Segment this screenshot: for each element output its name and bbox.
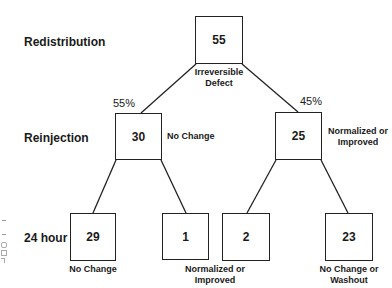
node-value: 2: [243, 230, 250, 244]
node-reinjection-right: 25: [275, 112, 322, 160]
branch-pct-right: 45%: [300, 95, 322, 107]
edge-root-to-30: [141, 64, 196, 113]
edge-bleed-mark: [2, 220, 6, 221]
caption-line: Normalized or: [326, 126, 390, 137]
node-reinjection-left: 30: [115, 113, 162, 160]
edge-25-to-2: [247, 160, 276, 213]
node-24h-1-caption: No Change: [63, 264, 123, 275]
caption-line: Irreversible: [189, 67, 249, 78]
node-reinjection-left-caption: No Change: [167, 131, 215, 142]
shared-caption-normalized: Normalized or Improved: [180, 264, 250, 286]
edge-bleed-mark: [1, 242, 7, 248]
node-value: 23: [342, 230, 355, 244]
caption-line: No Change or: [314, 264, 384, 275]
branch-pct-left: 55%: [113, 97, 135, 109]
edge-bleed-mark: [1, 250, 7, 256]
edge-30-to-29: [93, 160, 116, 213]
caption-line: Normalized or: [180, 264, 250, 275]
node-value: 29: [86, 230, 99, 244]
caption-line: Improved: [180, 275, 250, 286]
edge-25-to-23: [321, 160, 348, 213]
node-24h-4: 23: [325, 213, 373, 261]
row-label-24-hour: 24 hour: [24, 231, 67, 245]
row-label-reinjection: Reinjection: [24, 131, 89, 145]
node-24h-4-caption: No Change or Washout: [314, 264, 384, 286]
edge-root-to-25: [242, 64, 298, 112]
edge-bleed-mark: [2, 234, 6, 235]
node-24h-3: 2: [222, 213, 270, 261]
node-root: 55: [195, 16, 243, 64]
node-value: 1: [182, 230, 189, 244]
node-value: 30: [132, 130, 145, 144]
node-reinjection-right-caption: Normalized or Improved: [326, 126, 390, 148]
node-24h-1: 29: [70, 213, 116, 261]
caption-line: Washout: [314, 275, 384, 286]
caption-line: Defect: [189, 78, 249, 89]
edge-30-to-1: [161, 160, 186, 213]
node-value: 25: [292, 129, 305, 143]
node-root-caption: Irreversible Defect: [189, 67, 249, 89]
edge-bleed-mark: [1, 258, 5, 263]
row-label-redistribution: Redistribution: [24, 35, 105, 49]
node-root-value: 55: [212, 33, 225, 47]
caption-line: Improved: [326, 137, 390, 148]
node-24h-2: 1: [162, 213, 209, 260]
